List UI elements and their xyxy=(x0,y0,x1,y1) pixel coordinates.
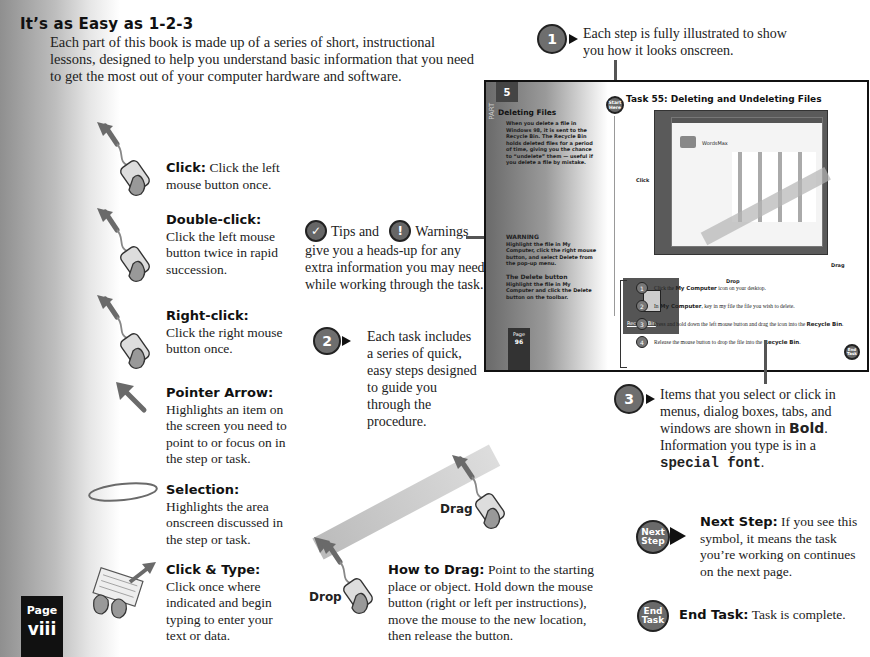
icon-label: End Task xyxy=(639,607,667,625)
callout-2-badge: 2 xyxy=(313,327,341,355)
keyboard-type-icon xyxy=(90,560,160,622)
step-text: Release the mouse button to drop the fil… xyxy=(654,339,762,345)
step-bold: Recycle Bin xyxy=(764,339,800,345)
step-number: 1 xyxy=(636,282,648,294)
legend-item-selection: Selection: Highlights the area onscreen … xyxy=(166,482,296,548)
step-text: , key in my file the file you wish to de… xyxy=(701,303,794,309)
drop-label: Drop xyxy=(309,590,342,604)
how-to-drag-text: How to Drag: Point to the starting place… xyxy=(388,562,598,645)
legend-description: Highlights an item on the screen you nee… xyxy=(166,402,287,467)
callout-number: 1 xyxy=(547,31,557,47)
icon-label: Next Step xyxy=(638,528,668,546)
tips-label: Tips and xyxy=(331,223,379,240)
callout-text: . xyxy=(761,455,765,470)
step-bold: My Computer xyxy=(675,285,716,291)
part-label: PART xyxy=(489,103,496,120)
sample-step-4: 4 Release the mouse button to drop the f… xyxy=(636,336,801,348)
step-text: . xyxy=(842,321,843,327)
callout-number: 3 xyxy=(624,391,634,407)
mouse-right-click-icon xyxy=(95,295,165,375)
legend-term: Right-click: xyxy=(166,308,291,325)
sample-step-2: 2 In My Computer, key in my file the fil… xyxy=(636,300,795,312)
sample-task-title: Task 55: Deleting and Undeleting Files xyxy=(626,94,822,104)
step-number: 3 xyxy=(636,318,648,330)
step-text: . xyxy=(799,339,800,345)
window-titlebar xyxy=(672,118,822,123)
warning-body: Highlight the file in My Computer, click… xyxy=(506,241,596,267)
legend-term: End Task: xyxy=(679,607,749,622)
page-label: Page xyxy=(21,604,63,617)
step-text: icon on your desktop. xyxy=(718,285,766,291)
sample-page-illustration: 5 PART Deleting Files When you delete a … xyxy=(484,80,869,372)
legend-item-double-click: Double-click: Click the left mouse butto… xyxy=(166,212,291,278)
sample-step-1: 1 Click the My Computer icon on your des… xyxy=(636,282,766,294)
end-task-text: End Task: Task is complete. xyxy=(679,607,859,624)
steps-bracket xyxy=(620,280,627,368)
mouse-drag-icon xyxy=(450,455,520,535)
step-text: Click the xyxy=(654,285,674,291)
pointer-arrow-icon xyxy=(112,380,152,416)
callout-3-badge: 3 xyxy=(614,384,644,414)
window-title: WordsMax xyxy=(702,140,728,147)
callout-3-text: Items that you select or click in menus,… xyxy=(660,386,838,472)
drag-label: Drag xyxy=(440,502,473,516)
sample-page-badge: Page 96 xyxy=(508,328,530,372)
callout-arrow-icon xyxy=(569,34,578,44)
callout-number: 2 xyxy=(322,333,332,349)
step-bold: My Computer xyxy=(660,303,701,309)
callout-1-text: Each step is fully illustrated to show y… xyxy=(583,25,793,59)
legend-description: Click the left mouse button twice in rap… xyxy=(166,229,278,277)
step-text: In xyxy=(654,303,659,309)
callout-arrow-icon xyxy=(646,394,655,404)
intro-paragraph: Each part of this book is made up of a s… xyxy=(50,34,480,85)
next-step-arrow-icon xyxy=(670,527,686,545)
part-number: 5 xyxy=(496,82,518,102)
step-bold: Recycle Bin xyxy=(806,321,842,327)
warnings-label: Warnings xyxy=(415,223,468,240)
legend-description: Task is complete. xyxy=(752,607,846,622)
next-step-text: Next Step: If you see this symbol, it me… xyxy=(700,514,860,580)
end-task-icon: End Task xyxy=(637,600,669,632)
tips-warnings-callout: ✓ Tips and ! Warnings give you a heads-u… xyxy=(305,220,505,293)
legend-item-pointer-arrow: Pointer Arrow: Highlights an item on the… xyxy=(166,385,296,468)
legend-description: Click the right mouse button once. xyxy=(166,325,283,357)
special-font-example: special font xyxy=(660,455,761,471)
legend-item-click: Click: Click the left mouse button once. xyxy=(166,160,296,193)
start-here-icon: Start Here xyxy=(606,96,624,114)
divider xyxy=(614,116,615,316)
sample-side-heading: Deleting Files xyxy=(498,108,556,117)
mouse-click-icon xyxy=(95,122,165,202)
sample-page-number: 96 xyxy=(508,338,530,345)
exclamation-warning-icon: ! xyxy=(389,220,411,242)
step-number: 4 xyxy=(636,336,648,348)
legend-item-right-click: Right-click: Click the right mouse butto… xyxy=(166,308,291,358)
tip-body: Highlight the file in My Computer and cl… xyxy=(506,281,592,300)
legend-term: Double-click: xyxy=(166,212,261,227)
mouse-drop-icon xyxy=(318,540,388,620)
step-text: Press and hold down the left mouse butto… xyxy=(654,321,805,327)
page-title: It’s as Easy as 1-2-3 xyxy=(20,15,193,33)
legend-term: How to Drag: xyxy=(388,562,485,577)
page-number: viii xyxy=(21,619,63,639)
warning-heading: WARNING xyxy=(506,233,539,240)
sample-warning: WARNING Highlight the file in My Compute… xyxy=(506,234,598,267)
sample-end-task-icon: End Task xyxy=(844,344,860,360)
sample-step-3: 3 Press and hold down the left mouse but… xyxy=(636,318,843,330)
mouse-double-click-icon xyxy=(95,208,165,288)
legend-term: Pointer Arrow: xyxy=(166,385,296,402)
sample-click-label: Click xyxy=(636,177,649,184)
selection-ellipse-icon xyxy=(86,480,160,504)
legend-term: Click: xyxy=(166,160,206,175)
callout-1-badge: 1 xyxy=(537,24,567,54)
callout-arrow-icon xyxy=(342,336,351,346)
legend-description: Highlights the area onscreen discussed i… xyxy=(166,499,283,547)
legend-term: Next Step: xyxy=(700,514,778,529)
legend-item-click-and-type: Click & Type: Click once where indicated… xyxy=(166,562,296,645)
checkmark-tip-icon: ✓ xyxy=(305,220,327,242)
step-number: 2 xyxy=(636,300,648,312)
legend-description: Click once where indicated and begin typ… xyxy=(166,579,273,644)
next-step-icon: Next Step xyxy=(636,520,670,554)
sample-tip: The Delete button Highlight the file in … xyxy=(506,274,598,300)
sample-drag-label: Drag xyxy=(831,262,845,269)
folder-icon xyxy=(680,136,696,148)
